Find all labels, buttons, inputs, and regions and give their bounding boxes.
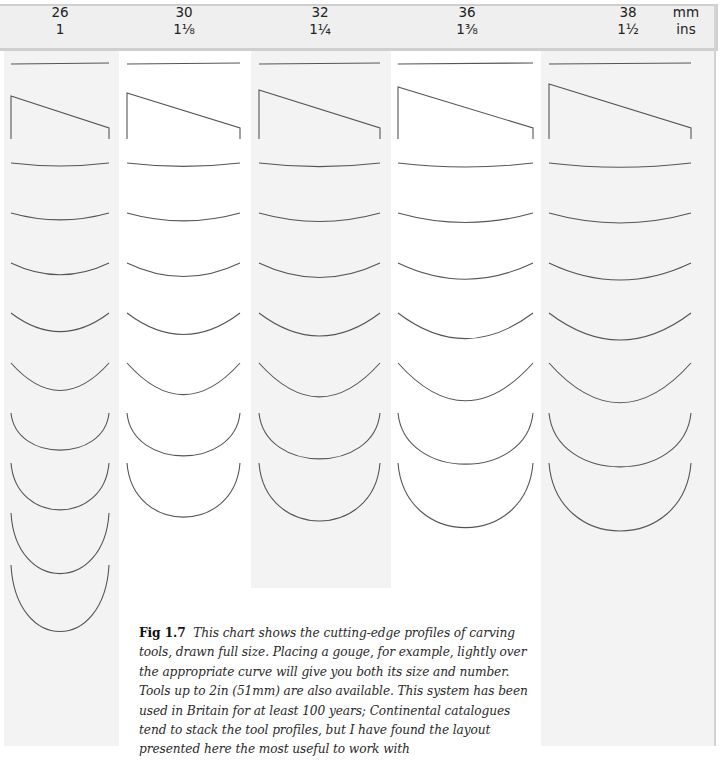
gouge-profile-6 <box>398 313 533 339</box>
gouge-profile-4 <box>127 213 240 221</box>
gouge-profile-5 <box>127 263 240 277</box>
figure-caption: Fig 1.7 This chart shows the cutting-edg… <box>139 624 539 760</box>
gouge-profile-3 <box>11 163 109 166</box>
right-border <box>714 4 716 746</box>
skew-chisel-profile <box>11 96 109 139</box>
gouge-profile-6 <box>127 313 240 334</box>
straight-chisel-profile <box>127 63 240 64</box>
gouge-profile-3 <box>259 163 380 167</box>
gouge-profile-4 <box>398 213 533 222</box>
caption-text: This chart shows the cutting-edge profil… <box>139 626 528 756</box>
gouge-profile-8 <box>11 413 109 450</box>
gouge-profile-3 <box>398 163 533 167</box>
straight-chisel-profile <box>549 63 691 64</box>
gouge-profile-6 <box>549 313 691 340</box>
gouge-profile-4 <box>259 213 380 221</box>
gouge-profile-9 <box>549 463 691 531</box>
skew-chisel-profile <box>127 93 240 139</box>
gouge-profile-5 <box>11 263 109 275</box>
gouge-profile-6 <box>259 313 380 336</box>
gouge-profile-7 <box>127 363 240 395</box>
gouge-profile-4 <box>549 213 691 223</box>
gouge-profile-8 <box>127 413 240 456</box>
gouge-profile-6 <box>11 313 109 332</box>
gouge-profile-10 <box>11 513 109 574</box>
skew-chisel-profile <box>549 84 691 139</box>
gouge-profile-7 <box>11 363 109 390</box>
gouge-profile-8 <box>398 413 533 464</box>
gouge-profile-7 <box>398 363 533 401</box>
gouge-profile-9 <box>11 463 109 510</box>
gouge-profile-5 <box>259 263 380 278</box>
straight-chisel-profile <box>259 63 380 64</box>
figure-label: Fig 1.7 <box>139 626 186 640</box>
gouge-profile-11 <box>11 565 109 631</box>
gouge-profile-9 <box>398 463 533 528</box>
gouge-profile-5 <box>398 263 533 279</box>
gouge-profile-8 <box>259 413 380 459</box>
skew-chisel-profile <box>259 90 380 139</box>
gouge-profile-4 <box>11 213 109 220</box>
skew-chisel-profile <box>398 87 533 139</box>
gouge-profile-7 <box>549 363 691 403</box>
gouge-profile-8 <box>549 413 691 467</box>
straight-chisel-profile <box>398 63 533 64</box>
gouge-profile-3 <box>549 163 691 167</box>
straight-chisel-profile <box>11 63 109 64</box>
gouge-profile-9 <box>259 463 380 521</box>
gouge-profile-7 <box>259 363 380 397</box>
gouge-profile-9 <box>127 463 240 517</box>
gouge-profile-3 <box>127 163 240 166</box>
gouge-profile-5 <box>549 263 691 280</box>
